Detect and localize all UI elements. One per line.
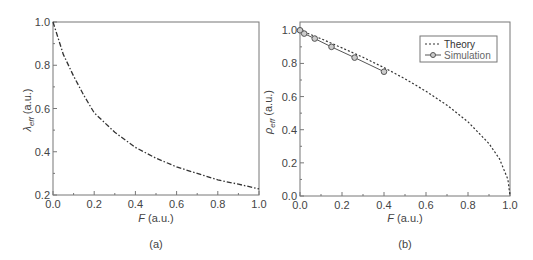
x-tick-label: 0.6 [169,198,184,210]
lambda-curve [53,22,259,189]
y-tick-label: 0.4 [282,124,297,136]
x-tick-label: 0.6 [418,199,433,211]
x-tick-label: 1.0 [502,199,517,211]
y-tick-label: 0.8 [35,59,50,71]
simulation-point [381,69,387,75]
y-tick-label: 1.0 [282,24,297,36]
legend-simulation-marker-icon [431,53,436,58]
x-tick-label: 0.4 [376,199,391,211]
legend-simulation-label: Simulation [444,50,491,61]
x-tick-label: 0.8 [460,199,475,211]
simulation-point [301,31,307,37]
legend: Theory Simulation [420,36,497,62]
x-tick-label: 0.2 [87,198,102,210]
simulation-point [312,36,318,42]
panel-label-a: (a) [149,238,162,250]
y-tick-label: 0.6 [282,91,297,103]
figure: 0.00.20.40.60.81.00.20.40.60.81.0 F (a.u… [0,0,533,260]
y-tick-label: 0.8 [282,57,297,69]
x-axis-label-a: F (a.u.) [138,212,173,224]
simulation-markers [297,27,387,74]
simulation-point [352,55,358,61]
x-tick-label: 1.0 [251,198,266,210]
y-tick-label: 1.0 [35,16,50,28]
y-tick-label: 0.2 [282,157,297,169]
x-tick-label: 0.8 [210,198,225,210]
x-axis-label-b: F (a.u.) [387,212,422,224]
y-tick-label: 0.0 [282,190,297,202]
panel-label-b: (b) [398,238,411,250]
simulation-point [329,44,335,50]
plot-frame-a [53,22,259,195]
panel-b: 0.00.20.40.60.81.00.00.20.40.60.81.0 F (… [262,22,518,250]
legend-theory-label: Theory [444,39,475,50]
y-tick-label: 0.6 [35,103,50,115]
y-axis-label-b: ρeff (a.u.) [262,90,277,135]
y-tick-label: 0.4 [35,146,50,158]
y-tick-label: 0.2 [35,189,50,201]
axis-ticks-a: 0.00.20.40.60.81.00.20.40.60.81.0 [35,16,267,210]
panel-a: 0.00.20.40.60.81.00.20.40.60.81.0 F (a.u… [21,16,267,250]
x-tick-label: 0.4 [128,198,143,210]
x-tick-label: 0.2 [334,199,349,211]
